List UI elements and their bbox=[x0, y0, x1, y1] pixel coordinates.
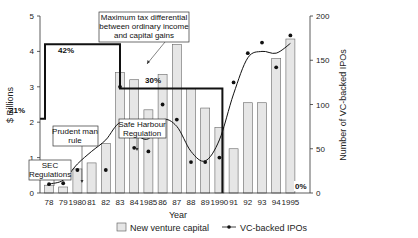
x-tick-label: 91 bbox=[229, 198, 238, 207]
x-tick-label: 1990 bbox=[211, 198, 229, 207]
bar bbox=[187, 89, 196, 193]
tax-42-label: 42% bbox=[58, 46, 74, 55]
ipo-point bbox=[246, 51, 250, 55]
ipo-point bbox=[260, 41, 264, 45]
x-tick-label: 1985 bbox=[140, 198, 158, 207]
right-tick-label: 100 bbox=[316, 101, 330, 110]
x-tick-label: 89 bbox=[201, 198, 210, 207]
y-axis-right-label: Number of VC-backed IPOs bbox=[338, 49, 348, 161]
ipo-point bbox=[232, 80, 236, 84]
left-tick-label: 2 bbox=[30, 118, 35, 127]
ipo-point bbox=[274, 65, 278, 69]
x-tick-label: 94 bbox=[272, 198, 281, 207]
bar bbox=[59, 187, 68, 193]
x-axis-ticks: 7879198081828384198586878889199091929394… bbox=[45, 198, 300, 207]
x-tick-label: 1980 bbox=[69, 198, 87, 207]
ipo-point bbox=[218, 156, 222, 160]
x-tick-label: 88 bbox=[187, 198, 196, 207]
svg-text:Regulation: Regulation bbox=[123, 129, 161, 138]
ipo-point bbox=[132, 146, 136, 150]
right-tick-label: 200 bbox=[316, 12, 330, 21]
tax-30-label: 30% bbox=[145, 76, 161, 85]
right-axis-ticks: 050100150200 bbox=[310, 12, 330, 198]
ipo-point bbox=[104, 168, 108, 172]
ipo-point bbox=[61, 181, 65, 185]
chart-figure: 012345 050100150200 78791980818283841985… bbox=[0, 0, 418, 238]
svg-text:Maximum tax differential: Maximum tax differential bbox=[101, 13, 188, 22]
x-tick-label: 83 bbox=[116, 198, 125, 207]
right-tick-label: 0 bbox=[316, 189, 321, 198]
right-tick-label: 50 bbox=[316, 145, 325, 154]
legend-bar-label: New venture capital bbox=[130, 223, 209, 233]
legend-line-label: VC-backed IPOs bbox=[240, 223, 308, 233]
bar bbox=[87, 163, 96, 193]
annotation-sec-regulations: SEC Regulations bbox=[29, 160, 71, 186]
svg-text:SEC: SEC bbox=[42, 161, 59, 170]
svg-text:Prudent man: Prudent man bbox=[52, 127, 98, 136]
tax-21-label: 21% bbox=[9, 106, 25, 115]
bar bbox=[272, 58, 281, 193]
x-tick-label: 79 bbox=[59, 198, 68, 207]
svg-text:rule: rule bbox=[68, 136, 82, 145]
x-tick-label: 92 bbox=[243, 198, 252, 207]
bar bbox=[73, 169, 82, 193]
ipo-point bbox=[47, 182, 51, 186]
bar bbox=[243, 103, 252, 193]
bar bbox=[45, 185, 54, 193]
y-axis-left-label: $ Billions bbox=[5, 86, 15, 123]
bar bbox=[286, 39, 295, 193]
ipo-point bbox=[118, 85, 122, 89]
svg-text:Safe Harbour: Safe Harbour bbox=[118, 120, 166, 129]
bar bbox=[258, 103, 267, 193]
svg-text:between ordinary income: between ordinary income bbox=[99, 22, 189, 31]
x-tick-label: 82 bbox=[101, 198, 110, 207]
x-tick-label: 78 bbox=[45, 198, 54, 207]
left-tick-label: 5 bbox=[30, 12, 35, 21]
left-tick-label: 0 bbox=[30, 189, 35, 198]
legend-bar-swatch bbox=[117, 223, 126, 231]
bar bbox=[201, 108, 210, 193]
svg-text:and capital gains: and capital gains bbox=[114, 31, 174, 40]
tax-0-label: 0% bbox=[295, 182, 307, 191]
ipo-point bbox=[147, 150, 151, 154]
x-tick-label: 86 bbox=[158, 198, 167, 207]
bar bbox=[229, 149, 238, 193]
x-tick-label: 87 bbox=[172, 198, 181, 207]
left-tick-label: 4 bbox=[30, 47, 35, 56]
legend: New venture capital VC-backed IPOs bbox=[117, 223, 308, 233]
ipo-point bbox=[175, 118, 179, 122]
ipo-point bbox=[76, 168, 80, 172]
left-tick-label: 3 bbox=[30, 83, 35, 92]
ipo-point bbox=[289, 34, 293, 38]
ipo-point bbox=[189, 160, 193, 164]
x-tick-label: 84 bbox=[130, 198, 139, 207]
x-axis-label: Year bbox=[169, 210, 187, 220]
right-tick-label: 150 bbox=[316, 56, 330, 65]
x-tick-label: 81 bbox=[87, 198, 96, 207]
x-tick-label: 93 bbox=[258, 198, 267, 207]
ipo-point bbox=[203, 160, 207, 164]
x-tick-label: 1995 bbox=[282, 198, 300, 207]
ipo-point bbox=[161, 103, 165, 107]
ipo-line-series bbox=[47, 34, 292, 186]
svg-text:Regulations: Regulations bbox=[29, 170, 71, 179]
